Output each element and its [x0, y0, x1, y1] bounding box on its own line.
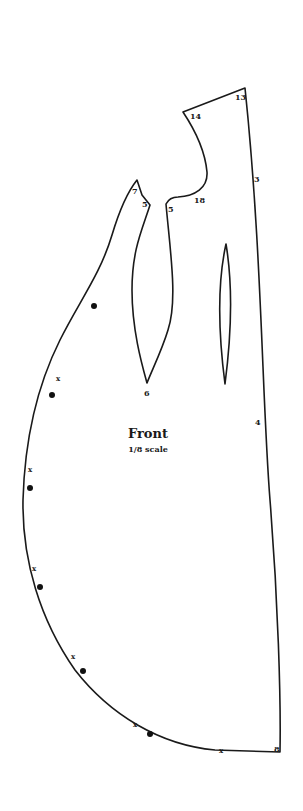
- point-label-18: 18: [194, 195, 206, 205]
- point-label-13: 13: [235, 92, 247, 102]
- notch-mark-4: x: [71, 652, 76, 661]
- point-label-3: 3: [254, 174, 260, 184]
- front-pattern-outline: [23, 88, 280, 752]
- point-label-5-left: 5: [142, 199, 148, 209]
- pattern-scale: 1/8 scale: [128, 444, 168, 454]
- placement-dot-4: [37, 584, 43, 590]
- placement-dot-3: [27, 485, 33, 491]
- point-label-4: 4: [255, 417, 261, 427]
- placement-dot-2: [49, 392, 55, 398]
- front-pattern-diagram: x x x x x x 13 14 3 18 7 5 5 6 4 8 Front…: [0, 0, 303, 811]
- notch-mark-3: x: [32, 564, 37, 573]
- notch-mark-1: x: [56, 374, 61, 383]
- waist-dart: [220, 244, 231, 384]
- placement-dot-1: [91, 303, 97, 309]
- point-label-14: 14: [190, 111, 202, 121]
- placement-dot-5: [80, 668, 86, 674]
- point-label-6: 6: [144, 388, 150, 398]
- point-label-5-right: 5: [168, 204, 174, 214]
- notch-mark-2: x: [28, 465, 33, 474]
- pattern-title: Front: [128, 426, 168, 441]
- point-label-8: 8: [274, 744, 280, 754]
- point-label-7: 7: [132, 186, 138, 196]
- placement-dot-6: [147, 731, 153, 737]
